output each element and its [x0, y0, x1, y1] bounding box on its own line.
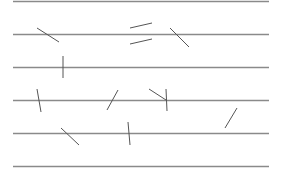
needle-12 — [225, 108, 237, 128]
needles-group — [37, 23, 237, 145]
needle-2 — [130, 23, 152, 28]
parallel-lines-group — [13, 2, 269, 167]
buffon-needle-diagram — [0, 0, 281, 170]
needle-10 — [61, 128, 79, 145]
needle-4 — [170, 28, 189, 47]
needle-3 — [130, 39, 152, 44]
needle-9 — [166, 89, 167, 111]
needle-8 — [149, 89, 166, 100]
diagram-canvas — [0, 0, 281, 170]
